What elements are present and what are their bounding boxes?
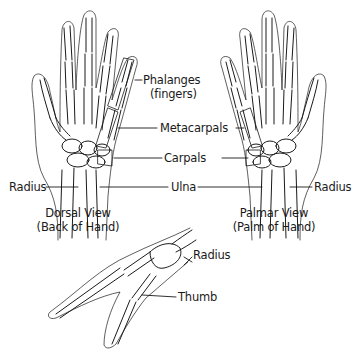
label-radius-palmar: Radius — [314, 181, 351, 194]
label-carpals: Carpals — [164, 152, 206, 165]
label-phalanges: Phalanges — [143, 74, 200, 87]
label-radius-lateral: Radius — [193, 249, 230, 262]
caption-dorsal-sub: (Back of Hand) — [33, 220, 123, 234]
label-metacarpals: Metacarpals — [160, 122, 228, 135]
caption-dorsal-title: Dorsal View — [38, 206, 118, 220]
label-phalanges-sub: (fingers) — [150, 88, 197, 101]
lateral-hand — [48, 228, 196, 348]
label-ulna: Ulna — [171, 181, 196, 194]
caption-palmar-title: Palmar View — [234, 206, 314, 220]
caption-palmar-sub: (Palm of Hand) — [229, 220, 319, 234]
label-radius-dorsal: Radius — [9, 181, 46, 194]
label-thumb: Thumb — [178, 291, 217, 304]
